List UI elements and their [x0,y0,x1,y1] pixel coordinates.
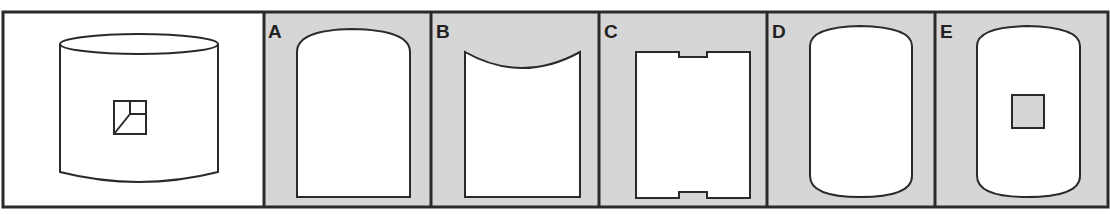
option-b[interactable]: B [431,12,599,207]
option-label: B [436,21,450,42]
option-e[interactable]: E [935,12,1108,207]
puzzle-figure: A B C D E [0,0,1110,214]
option-label: E [940,21,953,42]
option-label: A [268,21,282,42]
option-d[interactable]: D [767,12,935,207]
square-window-icon [1012,95,1044,128]
option-label: C [604,21,618,42]
option-a[interactable]: A [264,12,431,207]
option-c[interactable]: C [599,12,767,207]
option-label: D [772,21,786,42]
